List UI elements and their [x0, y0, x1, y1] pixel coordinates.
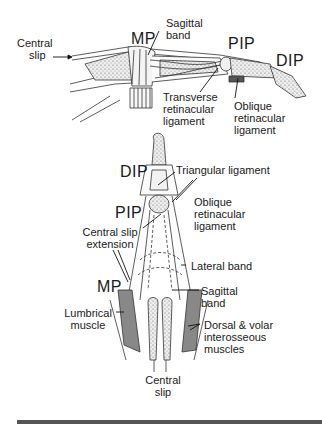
label-central-slip-lateral: Central slip	[17, 37, 52, 61]
label-line: ligament	[234, 124, 285, 136]
label-mp-dorsal: MP	[97, 279, 122, 295]
label-line: Transverse	[163, 91, 218, 103]
label-line: Central	[140, 374, 186, 386]
label-line: muscles	[204, 343, 273, 355]
label-line: band	[201, 297, 238, 309]
label-line: Sagittal	[201, 285, 238, 297]
label-line: muscle	[58, 319, 118, 331]
label-line: Central	[17, 37, 52, 49]
label-line: Dorsal & volar	[204, 319, 273, 331]
label-dip-dorsal: DIP	[120, 164, 148, 180]
label-line: slip	[140, 386, 186, 398]
label-line: Oblique	[194, 196, 245, 208]
label-line: Lumbrical	[58, 307, 118, 319]
label-transverse-retinacular-ligament: Transverse retinacular ligament	[163, 91, 218, 127]
label-line: retinacular	[234, 112, 285, 124]
label-dip-lateral: DIP	[276, 53, 304, 69]
label-lumbrical-muscle: Lumbrical muscle	[58, 307, 118, 331]
label-line: retinacular	[194, 208, 245, 220]
label-lateral-band: Lateral band	[191, 260, 252, 272]
label-line: Sagittal	[166, 17, 203, 29]
label-pip-lateral: PIP	[228, 36, 255, 52]
label-oblique-retinacular-ligament-lateral: Oblique retinacular ligament	[234, 100, 285, 136]
label-line: retinacular	[163, 103, 218, 115]
label-line: Oblique	[234, 100, 285, 112]
label-line: slip	[17, 49, 52, 61]
label-line: extension	[69, 238, 151, 250]
label-line: band	[166, 29, 203, 41]
label-pip-dorsal: PIP	[115, 205, 142, 221]
bottom-divider-bar	[17, 420, 322, 424]
label-sagittal-band-dorsal: Sagittal band	[201, 285, 238, 309]
label-line: interosseous	[204, 331, 273, 343]
label-oblique-retinacular-ligament-dorsal: Oblique retinacular ligament	[194, 196, 245, 232]
label-mp-lateral: MP	[131, 31, 156, 47]
finger-extensor-illustration	[0, 0, 322, 424]
label-sagittal-band-lateral: Sagittal band	[166, 17, 203, 41]
label-line: Central slip	[69, 226, 151, 238]
label-line: ligament	[194, 220, 245, 232]
label-triangular-ligament: Triangular ligament	[176, 164, 270, 176]
label-central-slip-extension: Central slip extension	[69, 226, 151, 250]
label-central-slip-dorsal: Central slip	[140, 374, 186, 398]
label-line: ligament	[163, 115, 218, 127]
label-interosseous-muscles: Dorsal & volar interosseous muscles	[204, 319, 273, 355]
